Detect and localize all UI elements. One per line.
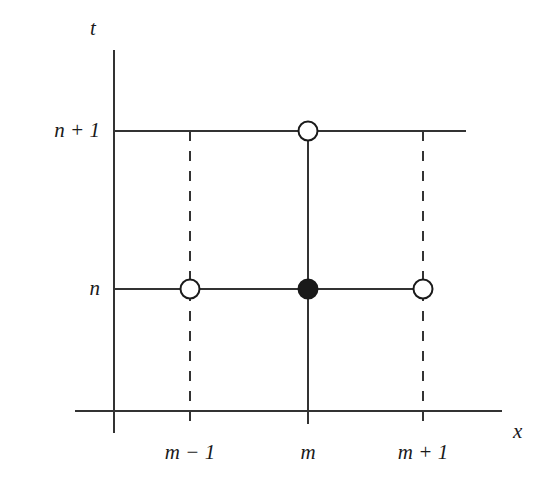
stencil-canvas bbox=[0, 0, 552, 486]
node-open-m-minus-1-n bbox=[181, 280, 200, 299]
node-solid-m-n bbox=[299, 280, 318, 299]
node-open-m-plus-1-n bbox=[414, 280, 433, 299]
t-tick-label-n: n bbox=[0, 278, 100, 299]
x-tick-label-m-minus-1: m − 1 bbox=[130, 442, 250, 463]
stencil-figure: t x n + 1 n m − 1 m m + 1 bbox=[0, 0, 552, 486]
node-open-m-n-plus-1 bbox=[299, 122, 318, 141]
x-tick-label-m-plus-1: m + 1 bbox=[363, 442, 483, 463]
t-tick-label-n-plus-1: n + 1 bbox=[0, 120, 100, 141]
x-axis-label: x bbox=[513, 421, 522, 442]
t-axis-label: t bbox=[90, 18, 96, 39]
x-tick-label-m: m bbox=[248, 442, 368, 463]
